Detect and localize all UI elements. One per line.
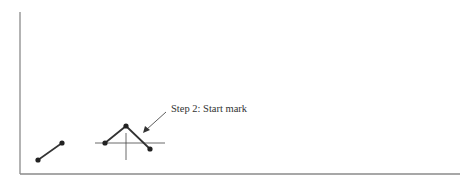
point-dot [147, 146, 152, 151]
segment-one [35, 140, 64, 162]
point-dot [123, 123, 128, 128]
crosshair [95, 133, 165, 160]
callout-arrow-icon [143, 112, 166, 133]
diagram-svg [0, 0, 464, 184]
step-label: Step 2: Start mark [171, 103, 247, 114]
point-dot [35, 157, 40, 162]
point-dot [102, 140, 107, 145]
point-dot [59, 140, 64, 145]
diagram-canvas: Step 2: Start mark [0, 0, 464, 184]
